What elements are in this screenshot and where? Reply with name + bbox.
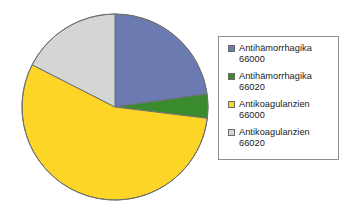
legend-label-antikoagulanzien-66020: Antikoagulanzien 66020 (239, 127, 310, 149)
legend-item-antikoagulanzien-66000[interactable]: Antikoagulanzien 66000 (219, 99, 338, 121)
legend-label-antihaemorrhagika-66000: Antihämorrhagika 66000 (239, 43, 312, 65)
legend-item-antikoagulanzien-66020[interactable]: Antikoagulanzien 66020 (219, 127, 338, 149)
chart-legend: Antihämorrhagika 66000 Antihämorrhagika … (218, 36, 339, 160)
legend-swatch-antihaemorrhagika-66020 (228, 73, 235, 80)
legend-swatch-antihaemorrhagika-66000 (228, 45, 235, 52)
legend-item-antihaemorrhagika-66000[interactable]: Antihämorrhagika 66000 (219, 43, 338, 65)
legend-label-antikoagulanzien-66000: Antikoagulanzien 66000 (239, 99, 310, 121)
legend-item-antihaemorrhagika-66020[interactable]: Antihämorrhagika 66020 (219, 71, 338, 93)
legend-swatch-antikoagulanzien-66000 (228, 101, 235, 108)
legend-label-antihaemorrhagika-66020: Antihämorrhagika 66020 (239, 71, 312, 93)
pie-chart-svg (0, 0, 215, 215)
pie-chart-figure: Antihämorrhagika 66000 Antihämorrhagika … (0, 0, 349, 215)
pie-slice-group (22, 14, 208, 200)
pie-slice-1[interactable] (115, 14, 207, 107)
pie-chart-plot-area (0, 0, 215, 215)
legend-swatch-antikoagulanzien-66020 (228, 129, 235, 136)
